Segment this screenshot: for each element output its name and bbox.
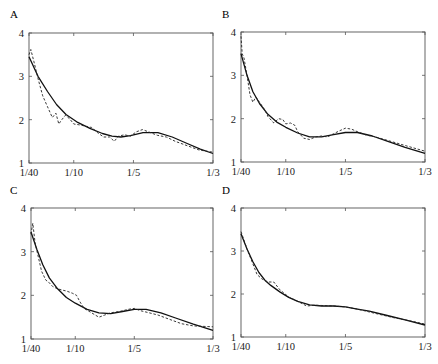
dashed-series-line — [31, 223, 213, 326]
axes-frame — [29, 33, 213, 163]
solid-series-line — [31, 232, 213, 330]
y-tick-label: 3 — [231, 70, 236, 81]
panel-c: 1/401/101/51/31234 — [21, 203, 220, 354]
y-tick-label: 2 — [19, 115, 24, 126]
solid-series-line — [241, 234, 425, 325]
panel-label-a: A — [10, 8, 18, 20]
y-tick-label: 3 — [231, 246, 236, 257]
y-tick-label: 4 — [19, 28, 25, 39]
x-tick-label: 1/5 — [128, 343, 141, 354]
y-tick-label: 1 — [231, 157, 236, 168]
x-tick-label: 1/5 — [339, 166, 352, 177]
x-tick-label: 1/3 — [206, 167, 219, 178]
x-tick-label: 1/10 — [66, 343, 85, 354]
x-tick-label: 1/5 — [127, 167, 140, 178]
y-tick-label: 1 — [21, 334, 26, 345]
y-tick-label: 4 — [231, 27, 237, 38]
y-tick-label: 1 — [19, 158, 24, 169]
y-tick-label: 2 — [231, 289, 236, 300]
y-tick-label: 3 — [19, 71, 24, 82]
figure: 1/401/101/51/312341/401/101/51/312341/40… — [0, 0, 438, 364]
y-tick-label: 4 — [231, 203, 237, 214]
panel-d: 1/401/101/51/31234 — [231, 203, 432, 352]
solid-series-line — [241, 54, 425, 154]
axes-frame — [31, 208, 213, 339]
axes-frame — [241, 32, 425, 162]
y-tick-label: 1 — [231, 332, 236, 343]
x-tick-label: 1/5 — [339, 341, 352, 352]
x-tick-label: 1/3 — [418, 166, 431, 177]
x-tick-label: 1/10 — [276, 166, 295, 177]
dashed-series-line — [241, 36, 425, 151]
figure-canvas: 1/401/101/51/312341/401/101/51/312341/40… — [0, 0, 438, 364]
panel-b: 1/401/101/51/31234 — [231, 27, 432, 177]
y-tick-label: 3 — [21, 247, 26, 258]
panel-a: 1/401/101/51/31234 — [19, 28, 220, 178]
x-tick-label: 1/3 — [206, 343, 219, 354]
dashed-series-line — [241, 232, 425, 325]
solid-series-line — [29, 57, 213, 154]
y-tick-label: 2 — [21, 290, 26, 301]
x-tick-label: 1/10 — [64, 167, 83, 178]
panel-label-c: C — [10, 184, 17, 196]
y-tick-label: 4 — [21, 203, 27, 214]
panel-label-d: D — [222, 184, 230, 196]
y-tick-label: 2 — [231, 114, 236, 125]
x-tick-label: 1/3 — [418, 341, 431, 352]
x-tick-label: 1/10 — [276, 341, 295, 352]
panel-label-b: B — [222, 8, 229, 20]
